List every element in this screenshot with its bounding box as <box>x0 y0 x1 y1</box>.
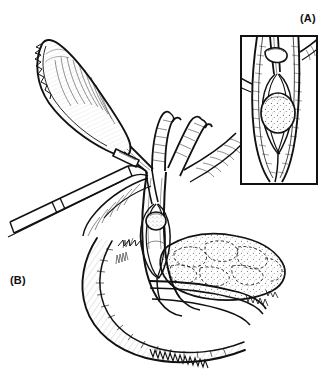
inset-captured-stone <box>261 93 295 133</box>
surgical-illustration-artwork <box>0 0 332 378</box>
catheter-hub-collar <box>265 48 287 63</box>
medical-illustration-figure: (A) (B) <box>0 0 332 378</box>
panel-label-b: (B) <box>10 275 26 286</box>
bile-duct-stone <box>146 212 166 230</box>
panel-a-inset <box>228 20 324 184</box>
panel-label-a: (A) <box>300 13 316 24</box>
